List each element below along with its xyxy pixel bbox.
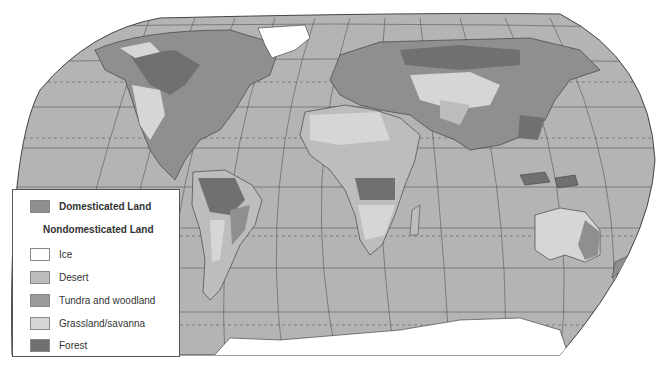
legend-label-grassland: Grassland/savanna xyxy=(59,318,145,329)
swatch-domesticated xyxy=(30,200,50,213)
swatch-grassland xyxy=(30,317,50,330)
swatch-tundra xyxy=(30,294,50,307)
swatch-ice xyxy=(30,248,50,261)
legend-nondomesticated-heading-row: Nondomesticated Land xyxy=(43,224,154,235)
legend-domesticated-label: Domesticated Land xyxy=(59,201,151,212)
swatch-forest xyxy=(30,339,50,352)
legend-item-tundra: Tundra and woodland xyxy=(30,294,155,307)
legend-item-forest: Forest xyxy=(30,339,87,352)
legend-label-forest: Forest xyxy=(59,340,87,351)
legend-label-ice: Ice xyxy=(59,249,72,260)
swatch-desert xyxy=(30,271,50,284)
legend-item-grassland: Grassland/savanna xyxy=(30,317,145,330)
legend-item-desert: Desert xyxy=(30,271,88,284)
legend-label-desert: Desert xyxy=(59,272,88,283)
legend-label-tundra: Tundra and woodland xyxy=(59,295,155,306)
legend: Domesticated Land Nondomesticated Land I… xyxy=(12,189,180,357)
legend-item-ice: Ice xyxy=(30,248,72,261)
legend-domesticated: Domesticated Land xyxy=(30,200,151,213)
legend-nondomesticated-heading: Nondomesticated Land xyxy=(43,224,154,235)
